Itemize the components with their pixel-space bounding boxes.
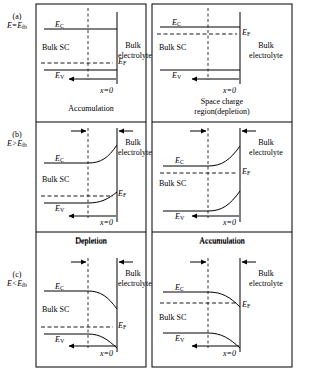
label-x0-b-right: x=0 — [223, 218, 236, 227]
label-ev-b-left: EV — [55, 204, 64, 213]
label-ev-a-left: EV — [55, 71, 64, 80]
label-bulk-sc-a-right: Bulk SC — [159, 43, 186, 52]
label-x0-a-left: x=0 — [100, 86, 113, 95]
label-electrolyte-a-right: Bulk electrolyte — [243, 41, 289, 60]
label-electrolyte-b-left: Bulk electrolyte — [118, 138, 148, 157]
label-ec-b-left: EC — [55, 154, 64, 163]
label-bulk-sc-c-right: Bulk SC — [159, 313, 186, 322]
valence-band-edge — [163, 191, 240, 211]
label-bulk-sc-b-right: Bulk SC — [159, 179, 186, 188]
caption-a-left: Accumulation — [37, 104, 145, 114]
label-ec-a-left: EC — [55, 20, 64, 29]
label-bulk-sc-c-left: Bulk SC — [42, 305, 69, 314]
label-ev-c-left: EV — [55, 335, 64, 344]
label-ef-b-left: EF — [118, 189, 126, 198]
caption-a-right: Space charge region(depletion) — [153, 97, 291, 116]
label-bulk-sc-a-left: Bulk SC — [42, 43, 69, 52]
label-electrolyte-a-left: Bulk electrolyte — [118, 41, 148, 60]
label-ef-c-right: EF — [242, 300, 250, 309]
label-bulk-sc-b-left: Bulk SC — [42, 175, 69, 184]
label-ef-c-left: EF — [118, 321, 126, 330]
conduction-band-edge — [163, 292, 240, 307]
caption-c-left: Depletion — [37, 236, 145, 246]
label-ev-b-right: EV — [175, 212, 184, 221]
label-x0-a-right: x=0 — [223, 86, 236, 95]
label-electrolyte-c-right: Bulk electrolyte — [243, 269, 289, 288]
label-ec-a-right: EC — [172, 18, 181, 27]
caption-c-right: Accumulation — [153, 236, 291, 246]
label-x0-c-right: x=0 — [223, 349, 236, 358]
label-electrolyte-b-right: Bulk electrolyte — [243, 138, 289, 157]
label-ev-c-right: EV — [175, 334, 184, 343]
label-x0-b-left: x=0 — [100, 218, 113, 227]
label-ef-b-right: EF — [242, 167, 250, 176]
label-x0-c-left: x=0 — [100, 349, 113, 358]
label-ev-a-right: EV — [172, 71, 181, 80]
label-ec-c-right: EC — [175, 283, 184, 292]
label-ec-c-left: EC — [55, 282, 64, 291]
valence-band-edge — [44, 192, 117, 203]
label-ec-b-right: EC — [175, 156, 184, 165]
label-electrolyte-c-left: Bulk electrolyte — [118, 269, 148, 288]
label-ef-a-right: EF — [242, 28, 250, 37]
